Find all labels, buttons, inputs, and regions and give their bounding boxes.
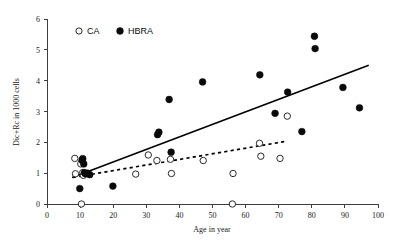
x-tick-label: 90 xyxy=(341,211,349,220)
data-point-hbra xyxy=(298,128,305,135)
y-tick-label: 3 xyxy=(36,108,40,117)
x-tick-label: 50 xyxy=(209,211,217,220)
data-point-ca xyxy=(200,157,206,163)
data-point-ca xyxy=(133,171,139,177)
x-tick-label: 0 xyxy=(45,211,49,220)
data-point-hbra xyxy=(109,183,116,190)
data-point-hbra xyxy=(284,89,291,96)
data-point-ca xyxy=(230,170,236,176)
data-point-hbra xyxy=(356,104,363,111)
data-point-ca xyxy=(78,201,84,207)
chart-svg: 0123456 0102030405060708090100 Age in ye… xyxy=(0,0,405,242)
data-point-hbra xyxy=(340,84,347,91)
y-tick-label: 4 xyxy=(36,77,40,86)
data-point-hbra xyxy=(199,79,206,86)
legend-label-ca: CA xyxy=(87,26,100,36)
data-point-hbra xyxy=(256,71,263,78)
x-axis-title: Age in year xyxy=(193,225,231,234)
data-point-hbra xyxy=(76,185,83,192)
data-point-hbra xyxy=(155,129,162,136)
x-tick-label: 10 xyxy=(76,211,84,220)
y-tick-label: 0 xyxy=(36,200,40,209)
data-point-ca xyxy=(256,140,262,146)
y-tick-label: 5 xyxy=(36,46,40,55)
data-point-hbra xyxy=(311,33,318,40)
data-point-ca xyxy=(167,156,173,162)
x-tick-label: 60 xyxy=(242,211,250,220)
data-point-hbra xyxy=(86,171,93,178)
data-point-ca xyxy=(168,170,174,176)
x-tick-label: 80 xyxy=(308,211,316,220)
y-tick-label: 1 xyxy=(36,169,40,178)
data-point-ca xyxy=(72,155,78,161)
y-tick-label: 2 xyxy=(36,138,40,147)
data-point-ca xyxy=(277,155,283,161)
data-point-ca xyxy=(72,171,78,177)
data-point-hbra xyxy=(166,96,173,103)
x-tick-label: 40 xyxy=(175,211,183,220)
data-point-hbra xyxy=(80,161,87,168)
x-tick-label: 70 xyxy=(275,211,283,220)
data-point-ca xyxy=(145,152,151,158)
legend-marker-hbra xyxy=(117,28,124,35)
y-axis-title: Dic+Rc in 1000 cells xyxy=(12,78,21,146)
x-tick-label: 20 xyxy=(109,211,117,220)
data-point-hbra xyxy=(168,149,175,156)
legend-marker-ca xyxy=(76,28,82,34)
data-point-hbra xyxy=(312,45,319,52)
data-point-ca xyxy=(258,153,264,159)
data-point-ca xyxy=(154,157,160,163)
data-point-ca xyxy=(284,113,290,119)
x-tick-label: 30 xyxy=(142,211,150,220)
x-tick-label: 100 xyxy=(372,211,384,220)
legend-label-hbra: HBRA xyxy=(128,26,153,36)
scatter-chart: 0123456 0102030405060708090100 Age in ye… xyxy=(0,0,405,242)
data-point-ca xyxy=(229,201,235,207)
chart-background xyxy=(0,0,405,242)
y-tick-label: 6 xyxy=(36,15,40,24)
data-point-hbra xyxy=(272,110,279,117)
